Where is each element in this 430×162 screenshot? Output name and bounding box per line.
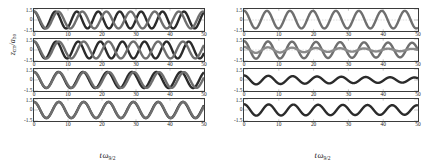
y-axis-label: zcm/aho — [8, 7, 17, 83]
x-tick-label-left-2-5: 50 — [201, 62, 206, 67]
x-tick-label-right-2-1: 10 — [276, 62, 281, 67]
y-tick-label-left-4-1: 0 — [30, 107, 33, 112]
y-tick-label-right-1-1: 0 — [240, 17, 243, 22]
x-tick-label-left-2-3: 30 — [133, 62, 138, 67]
x-tick-label-left-1-0: 0 — [33, 32, 36, 37]
x-tick-label-left-3-5: 50 — [201, 92, 206, 97]
x-tick-label-left-2-1: 10 — [65, 62, 70, 67]
plot-area-right-3 — [244, 69, 418, 91]
y-tick-label-right-4-2: -1.5 — [234, 118, 243, 123]
x-axis-label-t: t — [99, 150, 101, 160]
x-tick-label-left-1-3: 30 — [133, 32, 138, 37]
plot-panel-left-1: 1.50-1.501020304050 — [33, 8, 205, 32]
y-tick-label-right-3-2: -1.5 — [234, 88, 243, 93]
x-tick-label-left-3-2: 20 — [99, 92, 104, 97]
plot-area-right-2 — [244, 39, 418, 61]
y-axis-label-z: z — [8, 52, 17, 55]
y-tick-label-right-1-0: 1.5 — [236, 8, 243, 13]
x-tick-label-right-2-4: 40 — [380, 62, 385, 67]
plot-area-right-1 — [244, 9, 418, 31]
plot-area-right-4 — [244, 99, 418, 121]
y-tick-label-left-3-1: 0 — [30, 77, 33, 82]
x-tick-label-right-1-4: 40 — [380, 32, 385, 37]
x-tick-label-right-1-0: 0 — [243, 32, 246, 37]
y-tick-label-left-1-1: 0 — [30, 17, 33, 22]
y-tick-label-right-2-2: -1.5 — [234, 58, 243, 63]
y-axis-label-slash: /a — [8, 39, 17, 45]
plot-panel-right-3: 1.50-1.501020304050 — [243, 68, 419, 92]
x-tick-label-right-1-3: 30 — [346, 32, 351, 37]
x-tick-label-right-4-3: 30 — [346, 122, 351, 127]
y-tick-label-left-1-0: 1.5 — [26, 8, 33, 13]
x-tick-label-right-3-3: 30 — [346, 92, 351, 97]
x-tick-label-right-4-2: 20 — [311, 122, 316, 127]
x-axis-label-t: t — [314, 150, 316, 160]
x-tick-label-right-2-5: 50 — [415, 62, 420, 67]
x-tick-label-right-4-5: 50 — [415, 122, 420, 127]
panel-column-right: t ω9/2 1.50-1.5010203040501.50-1.5010203… — [215, 0, 430, 162]
y-tick-label-left-2-2: -1.5 — [24, 58, 33, 63]
x-tick-label-left-3-3: 30 — [133, 92, 138, 97]
x-tick-label-right-2-3: 30 — [346, 62, 351, 67]
x-tick-label-right-3-2: 20 — [311, 92, 316, 97]
x-tick-label-right-4-0: 0 — [243, 122, 246, 127]
y-tick-label-right-2-0: 1.5 — [236, 38, 243, 43]
x-tick-label-right-3-4: 40 — [380, 92, 385, 97]
x-tick-label-left-4-1: 10 — [65, 122, 70, 127]
x-axis-label-left: t ω9/2 — [0, 150, 215, 161]
y-tick-label-right-2-1: 0 — [240, 47, 243, 52]
x-tick-label-right-4-4: 40 — [380, 122, 385, 127]
x-tick-label-left-3-4: 40 — [167, 92, 172, 97]
x-tick-label-right-3-1: 10 — [276, 92, 281, 97]
plot-panel-right-2: 1.50-1.501020304050 — [243, 38, 419, 62]
plot-panel-right-1: 1.50-1.501020304050 — [243, 8, 419, 32]
x-tick-label-right-1-5: 50 — [415, 32, 420, 37]
x-tick-label-left-4-0: 0 — [33, 122, 36, 127]
figure-root: zcm/aho t ω9/2 1.50-1.5010203040501.50-1… — [0, 0, 430, 162]
x-tick-label-left-2-0: 0 — [33, 62, 36, 67]
y-tick-label-right-4-0: 1.5 — [236, 98, 243, 103]
x-tick-label-left-2-2: 20 — [99, 62, 104, 67]
x-tick-label-right-3-0: 0 — [243, 92, 246, 97]
x-axis-label-sub: 9/2 — [324, 155, 331, 161]
plot-area-left-4 — [34, 99, 204, 121]
y-tick-label-left-3-2: -1.5 — [24, 88, 33, 93]
x-tick-label-right-4-1: 10 — [276, 122, 281, 127]
x-tick-label-right-1-1: 10 — [276, 32, 281, 37]
x-axis-label-sub: 9/2 — [109, 155, 116, 161]
plot-area-left-2 — [34, 39, 204, 61]
x-tick-label-left-4-5: 50 — [201, 122, 206, 127]
x-tick-labels-right-4: 01020304050 — [244, 121, 418, 130]
x-tick-label-left-3-1: 10 — [65, 92, 70, 97]
x-tick-label-left-2-4: 40 — [167, 62, 172, 67]
y-axis-label-ho: ho — [11, 34, 17, 40]
x-tick-label-left-4-3: 30 — [133, 122, 138, 127]
x-tick-label-right-1-2: 20 — [311, 32, 316, 37]
y-tick-label-left-4-2: -1.5 — [24, 118, 33, 123]
x-tick-label-right-2-0: 0 — [243, 62, 246, 67]
x-tick-labels-left-4: 01020304050 — [34, 121, 204, 130]
y-tick-label-left-4-0: 1.5 — [26, 98, 33, 103]
plot-panel-right-4: 1.50-1.501020304050 — [243, 98, 419, 122]
plot-panel-left-4: 1.50-1.501020304050 — [33, 98, 205, 122]
y-tick-label-right-3-1: 0 — [240, 77, 243, 82]
y-tick-label-left-3-0: 1.5 — [26, 68, 33, 73]
y-tick-label-left-2-0: 1.5 — [26, 38, 33, 43]
y-tick-label-right-1-2: -1.5 — [234, 28, 243, 33]
y-axis-label-cm: cm — [11, 45, 17, 52]
plot-panel-left-2: 1.50-1.501020304050 — [33, 38, 205, 62]
plot-panel-left-3: 1.50-1.501020304050 — [33, 68, 205, 92]
plot-area-left-1 — [34, 9, 204, 31]
panel-column-left: zcm/aho t ω9/2 1.50-1.5010203040501.50-1… — [0, 0, 215, 162]
x-tick-label-left-1-4: 40 — [167, 32, 172, 37]
y-tick-label-left-1-2: -1.5 — [24, 28, 33, 33]
x-tick-label-right-3-5: 50 — [415, 92, 420, 97]
y-tick-label-left-2-1: 0 — [30, 47, 33, 52]
x-tick-label-left-4-4: 40 — [167, 122, 172, 127]
y-tick-label-right-3-0: 1.5 — [236, 68, 243, 73]
plot-area-left-3 — [34, 69, 204, 91]
x-tick-label-left-1-1: 10 — [65, 32, 70, 37]
x-axis-label-right: t ω9/2 — [215, 150, 430, 161]
x-tick-label-left-4-2: 20 — [99, 122, 104, 127]
y-tick-label-right-4-1: 0 — [240, 107, 243, 112]
